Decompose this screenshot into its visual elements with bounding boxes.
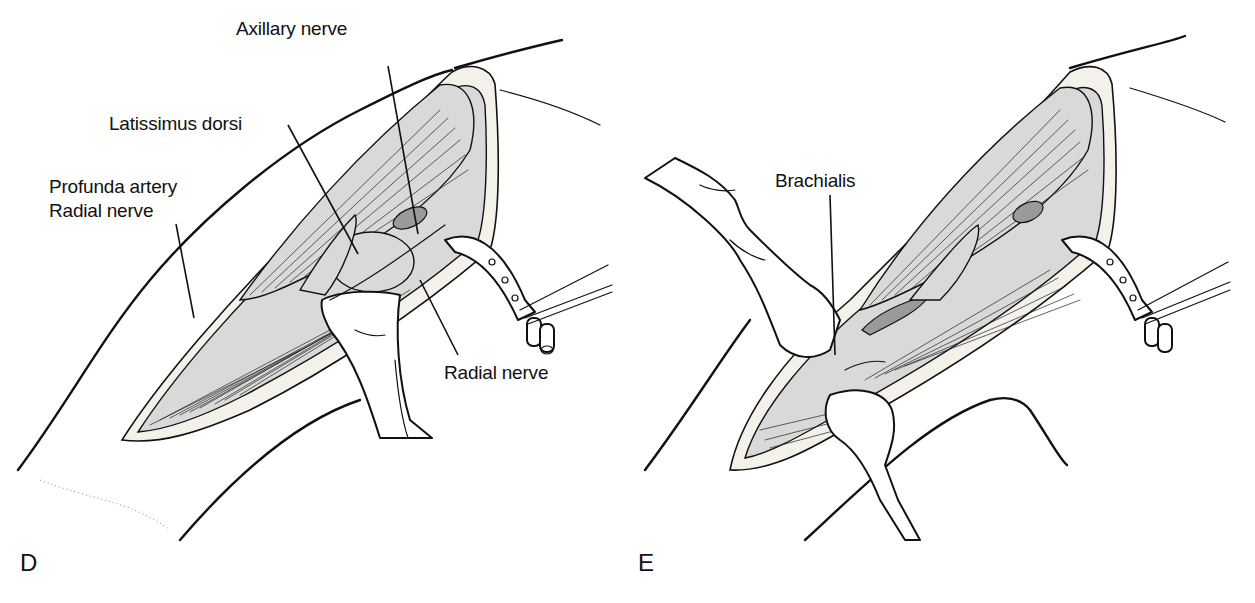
- label-profunda-artery: Profunda artery: [49, 176, 177, 198]
- radial-nerve-upper-leader: [176, 224, 194, 318]
- panel-d: Axillary nerve Latissimus dorsi Profunda…: [0, 0, 630, 603]
- label-latissimus-dorsi: Latissimus dorsi: [109, 113, 242, 135]
- panel-e-illustration: [630, 0, 1255, 603]
- label-radial-nerve-upper: Radial nerve: [49, 200, 153, 222]
- label-radial-nerve-lower: Radial nerve: [444, 362, 548, 384]
- label-axillary-nerve: Axillary nerve: [236, 18, 347, 40]
- panel-d-illustration: [0, 0, 630, 603]
- panel-letter-e: E: [638, 550, 654, 576]
- panel-letter-d: D: [20, 550, 37, 576]
- label-brachialis: Brachialis: [775, 170, 855, 192]
- panel-e: Brachialis E: [630, 0, 1255, 603]
